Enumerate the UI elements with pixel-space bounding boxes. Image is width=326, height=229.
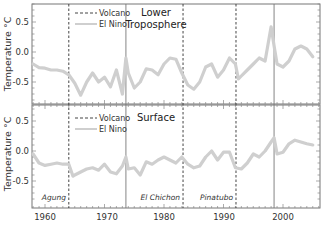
ytick-top-m0.5: -0.5 — [12, 77, 29, 87]
panel-title-surface: Surface — [137, 112, 175, 123]
event-label-pinatubo: Pinatubo — [200, 193, 233, 202]
event-label-agung: Agung — [41, 193, 66, 202]
legend-volcano-label: Volcano — [99, 114, 130, 123]
ylabel-top: Temperature °C — [2, 16, 13, 92]
temperature-chart: 0.5 0.0 -0.5 0.5 0.0 -0.5 Temperature °C… — [0, 0, 326, 229]
legend-elnino-label: El Nino — [99, 125, 127, 134]
lower-troposphere-trace — [33, 27, 313, 95]
ylabel-bottom: Temperature °C — [2, 116, 13, 192]
xtick-2000: 2000 — [272, 212, 294, 222]
xtick-1990: 1990 — [213, 212, 235, 222]
ytick-bottom-0.5: 0.5 — [15, 116, 29, 126]
axis-ticks — [32, 4, 320, 208]
surface-trace — [33, 138, 313, 176]
panel-title-lower-troposphere-2: Troposphere — [124, 19, 186, 30]
legend-elnino-label: El Nino — [99, 20, 127, 29]
ytick-top-0.0: 0.0 — [15, 47, 29, 57]
ytick-bottom-0.0: 0.0 — [15, 146, 29, 156]
panel-title-lower-troposphere-1: Lower — [141, 7, 172, 18]
ytick-bottom-m0.5: -0.5 — [12, 176, 29, 186]
legend-bottom: Volcano El Nino — [75, 114, 130, 134]
legend-top: Volcano El Nino — [75, 9, 130, 29]
event-lines — [69, 4, 274, 208]
ytick-top-0.5: 0.5 — [15, 17, 29, 27]
legend-volcano-label: Volcano — [99, 9, 130, 18]
event-label-el-chichon: El Chichon — [141, 193, 181, 202]
xtick-1970: 1970 — [96, 212, 118, 222]
xtick-1980: 1980 — [153, 212, 175, 222]
xtick-1960: 1960 — [34, 212, 56, 222]
